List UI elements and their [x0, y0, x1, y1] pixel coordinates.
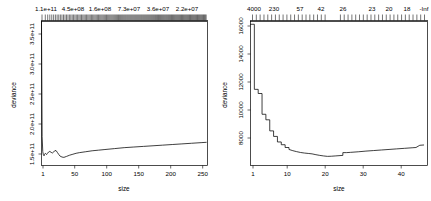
left-x-tick-label: 1: [41, 170, 45, 177]
figure-canvas: 1.1e+11 4.5e+08 1.6e+08 7.3e+07 3.6e+07 …: [0, 0, 431, 201]
right-y-tick-label: 16000: [237, 17, 244, 35]
right-y-tick-label: 8000: [237, 131, 244, 145]
left-y-tick-label: 1.5e+11: [28, 142, 35, 165]
left-top-tick-label: 3.6e+07: [147, 5, 170, 12]
right-deviance-curve: [251, 24, 424, 156]
right-x-tick-label: 40: [398, 170, 405, 177]
right-y-tick-label: 12000: [237, 73, 244, 91]
right-plot-panel: 4000 230 57 42 26 23 20 18 -Inf 16000: [216, 0, 431, 201]
left-top-tick-label: 1.1e+11: [35, 5, 58, 12]
left-top-axis-labels: 1.1e+11 4.5e+08 1.6e+08 7.3e+07 3.6e+07 …: [35, 5, 199, 12]
right-top-axis-rug: [253, 15, 425, 21]
left-x-axis: 1 50 100 150 200 250 size: [41, 166, 208, 193]
left-y-tick-label: 3.0e+11: [28, 52, 35, 75]
right-x-tick-label: 30: [360, 170, 367, 177]
right-y-axis: 16000 14000 12000 10000 8000 deviance: [221, 17, 251, 145]
right-x-tick-label: 10: [284, 170, 291, 177]
left-top-tick-label: 7.3e+07: [118, 5, 141, 12]
right-top-tick-label: 42: [318, 5, 325, 12]
right-x-tick-label: 20: [322, 170, 329, 177]
left-y-tick-label: 2.5e+11: [28, 82, 35, 105]
left-top-axis-rug: [42, 15, 206, 21]
right-top-tick-label: 18: [404, 5, 411, 12]
left-top-tick-label: 1.6e+08: [89, 5, 112, 12]
left-x-axis-title: size: [118, 185, 130, 192]
right-x-tick-label: 1: [251, 170, 255, 177]
left-x-tick-label: 100: [102, 170, 113, 177]
left-x-tick-label: 50: [71, 170, 78, 177]
right-top-tick-label: 230: [269, 5, 280, 12]
left-deviance-curve: [42, 22, 207, 158]
right-top-tick-label: 20: [386, 5, 393, 12]
right-y-tick-label: 10000: [237, 101, 244, 119]
left-x-tick-label: 200: [166, 170, 177, 177]
left-x-tick-label: 250: [198, 170, 209, 177]
left-y-tick-label: 3.5e+11: [28, 22, 35, 45]
right-top-tick-label: -Inf: [420, 5, 429, 12]
left-y-axis-title: deviance: [10, 82, 17, 108]
right-top-tick-label: 23: [369, 5, 376, 12]
left-plot-panel: 1.1e+11 4.5e+08 1.6e+08 7.3e+07 3.6e+07 …: [0, 0, 216, 201]
right-top-tick-label: 57: [297, 5, 304, 12]
right-y-axis-title: deviance: [221, 82, 228, 108]
right-plot-frame: [251, 22, 428, 166]
left-x-tick-label: 150: [134, 170, 145, 177]
right-plot-svg: 4000 230 57 42 26 23 20 18 -Inf 16000: [216, 0, 431, 201]
right-top-tick-label: 26: [340, 5, 347, 12]
left-plot-svg: 1.1e+11 4.5e+08 1.6e+08 7.3e+07 3.6e+07 …: [0, 0, 216, 201]
left-top-tick-label: 2.2e+07: [176, 5, 199, 12]
right-x-axis: 1 10 20 30 40 size: [251, 166, 405, 193]
left-y-tick-label: 2.0e+11: [28, 112, 35, 135]
right-x-axis-title: size: [333, 185, 345, 192]
right-y-tick-label: 14000: [237, 45, 244, 63]
right-top-tick-label: 4000: [247, 5, 261, 12]
left-top-tick-label: 4.5e+08: [62, 5, 85, 12]
left-y-axis: 3.5e+11 3.0e+11 2.5e+11 2.0e+11 1.5e+11 …: [10, 22, 42, 165]
right-top-axis-labels: 4000 230 57 42 26 23 20 18 -Inf: [247, 5, 429, 12]
